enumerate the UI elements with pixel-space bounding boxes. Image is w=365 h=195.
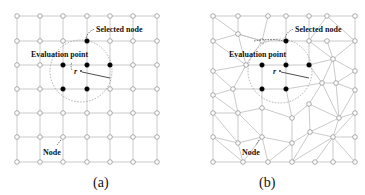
radius-symbol: r bbox=[273, 67, 277, 76]
radius-line bbox=[281, 72, 309, 78]
figure-canvas: r Selected node Evaluation point Node (a… bbox=[0, 0, 365, 195]
radius-symbol: r bbox=[74, 67, 78, 76]
panel-a-caption: (a) bbox=[93, 175, 109, 191]
selected-node-label: Selected node bbox=[96, 25, 143, 34]
panel-b-caption: (b) bbox=[259, 175, 276, 191]
evaluation-point-marker bbox=[80, 70, 82, 72]
node-label: Node bbox=[242, 148, 260, 157]
panel-b: r Selected node Evaluation point Node (b… bbox=[211, 14, 358, 191]
radius-line bbox=[82, 72, 110, 78]
evaluation-point-marker bbox=[279, 70, 281, 72]
node-leader bbox=[57, 140, 61, 145]
evaluation-point-label: Evaluation point bbox=[31, 50, 88, 59]
evaluation-point-label: Evaluation point bbox=[229, 50, 286, 59]
panel-a: r Selected node Evaluation point Node (a… bbox=[15, 14, 160, 191]
selected-node-label: Selected node bbox=[295, 25, 342, 34]
node-label: Node bbox=[43, 148, 61, 157]
